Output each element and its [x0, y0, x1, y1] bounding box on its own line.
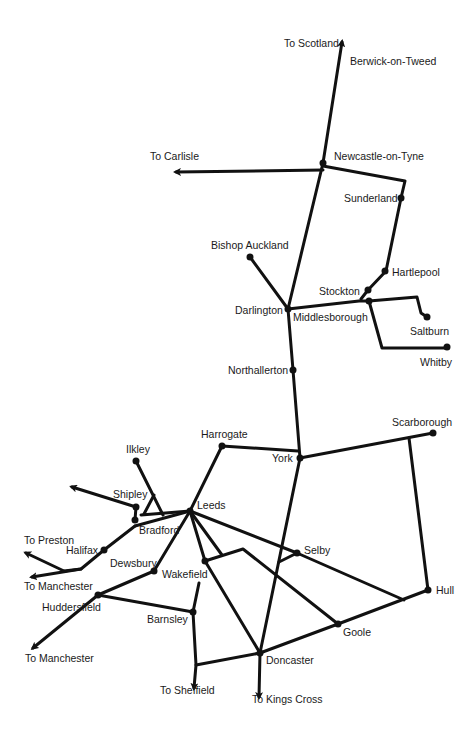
station-dot-wakefield[interactable] — [202, 558, 209, 565]
label-northallerton: Northallerton — [228, 364, 288, 376]
label-to-scotland: To Scotland — [284, 37, 339, 49]
station-dot-doncaster[interactable] — [257, 650, 264, 657]
label-harrogate: Harrogate — [201, 428, 248, 440]
station-dot-newcastle[interactable] — [320, 160, 327, 167]
station-dot-stockton[interactable] — [365, 287, 372, 294]
label-to-kings-cross: To Kings Cross — [252, 693, 323, 705]
label-goole: Goole — [343, 626, 371, 638]
station-dot-shipley[interactable] — [133, 504, 140, 511]
label-berwick: Berwick-on-Tweed — [350, 55, 437, 67]
label-to-carlisle: To Carlisle — [150, 150, 199, 162]
line-newcastle-scotland — [323, 42, 342, 163]
station-dot-goole[interactable] — [335, 621, 342, 628]
line-newcastle-sunderland — [323, 166, 405, 299]
station-dot-barnsley[interactable] — [190, 609, 197, 616]
line-to-manchester-1 — [32, 569, 81, 577]
label-barnsley: Barnsley — [147, 613, 189, 625]
line-sheffield-doncaster — [196, 653, 260, 665]
station-dot-bradford[interactable] — [132, 517, 139, 524]
label-darlington: Darlington — [235, 304, 283, 316]
label-stockton: Stockton — [319, 285, 360, 297]
label-bishop-auckland: Bishop Auckland — [211, 239, 289, 251]
label-to-manchester-1: To Manchester — [24, 580, 93, 592]
station-dot-saltburn[interactable] — [424, 314, 431, 321]
line-wakefield-barnsley — [193, 583, 199, 688]
station-dot-middlesborough[interactable] — [366, 298, 373, 305]
station-dot-york[interactable] — [297, 455, 304, 462]
line-wakefield-doncaster — [205, 561, 260, 653]
label-saltburn: Saltburn — [410, 325, 449, 337]
station-dot-selby[interactable] — [294, 550, 301, 557]
line-seamer-hull — [409, 438, 428, 590]
label-bradford: Bradford — [139, 524, 179, 536]
label-hartlepool: Hartlepool — [392, 266, 440, 278]
label-to-sheffield: To Sheffield — [160, 684, 215, 696]
label-scarborough: Scarborough — [392, 416, 452, 428]
station-dot-huddersfield[interactable] — [95, 592, 102, 599]
label-to-preston: To Preston — [24, 534, 74, 546]
line-to-preston — [26, 553, 64, 571]
railway-map: To Scotland Berwick-on-Tweed To Carlisle… — [0, 0, 476, 744]
line-huddersfield-barnsley — [98, 595, 193, 612]
station-dot-whitby[interactable] — [444, 344, 451, 351]
label-newcastle: Newcastle-on-Tyne — [334, 150, 424, 162]
station-dot-halifax[interactable] — [101, 547, 108, 554]
label-york: York — [272, 452, 293, 464]
station-dot-sunderland[interactable] — [398, 195, 405, 202]
line-darlington-york — [288, 309, 300, 458]
station-dot-darlington[interactable] — [285, 306, 292, 313]
station-dot-bishop-auckland[interactable] — [247, 254, 254, 261]
line-newcastle-darlington — [288, 163, 323, 309]
line-doncaster-hull — [260, 590, 428, 653]
label-middlesborough: Middlesborough — [293, 311, 368, 323]
line-newcastle-carlisle — [176, 170, 323, 172]
label-dewsbury: Dewsbury — [110, 557, 157, 569]
line-bishop-auckland — [250, 257, 288, 309]
label-leeds: Leeds — [197, 499, 226, 511]
label-sunderland: Sunderland — [344, 192, 398, 204]
label-huddersfield: Huddersfield — [42, 601, 101, 613]
station-dots — [95, 160, 451, 657]
line-wakefield-goole — [205, 549, 338, 624]
station-dot-harrogate[interactable] — [219, 443, 226, 450]
station-dot-leeds[interactable] — [187, 508, 194, 515]
label-doncaster: Doncaster — [266, 654, 314, 666]
label-selby: Selby — [304, 544, 331, 556]
label-wakefield: Wakefield — [162, 568, 208, 580]
label-hull: Hull — [436, 584, 454, 596]
label-whitby: Whitby — [420, 356, 453, 368]
line-harrogate-york — [222, 446, 298, 451]
label-to-manchester-2: To Manchester — [25, 652, 94, 664]
line-york-scarborough — [300, 433, 433, 458]
station-dot-hartlepool[interactable] — [382, 268, 389, 275]
station-dot-northallerton[interactable] — [290, 367, 297, 374]
station-dot-ilkley[interactable] — [133, 458, 140, 465]
station-dot-hull[interactable] — [425, 587, 432, 594]
label-ilkley: Ilkley — [126, 443, 151, 455]
label-shipley: Shipley — [113, 488, 148, 500]
line-leeds-wakefield — [190, 511, 205, 561]
station-dot-scarborough[interactable] — [430, 430, 437, 437]
